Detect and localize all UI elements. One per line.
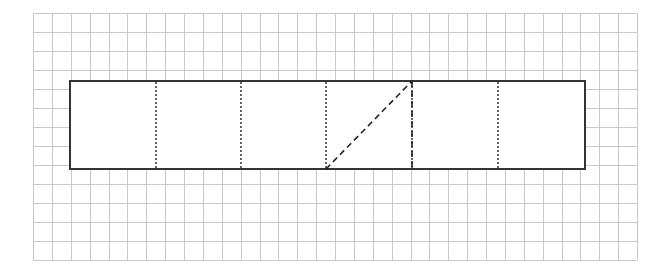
diagram-canvas [0, 0, 665, 274]
net-rectangle [70, 81, 585, 169]
